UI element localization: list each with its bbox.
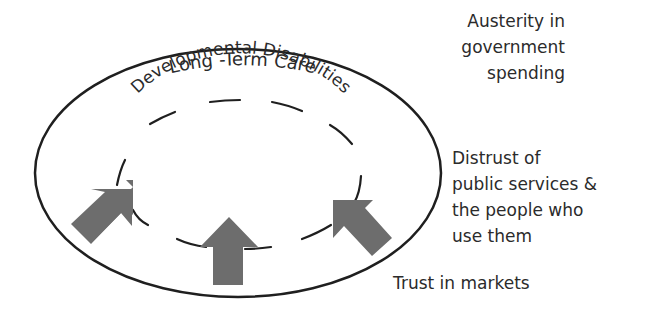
austerity-label: Austerity in government spending	[405, 8, 565, 86]
arrow-up-left-icon	[333, 200, 392, 256]
developmental-disabilities-arc	[117, 100, 361, 249]
arrow-up-right-icon	[71, 189, 132, 244]
trust-in-markets-label: Trust in markets	[393, 270, 530, 296]
arrow-up-icon	[200, 217, 258, 285]
distrust-label: Distrust of public services & the people…	[452, 145, 597, 249]
